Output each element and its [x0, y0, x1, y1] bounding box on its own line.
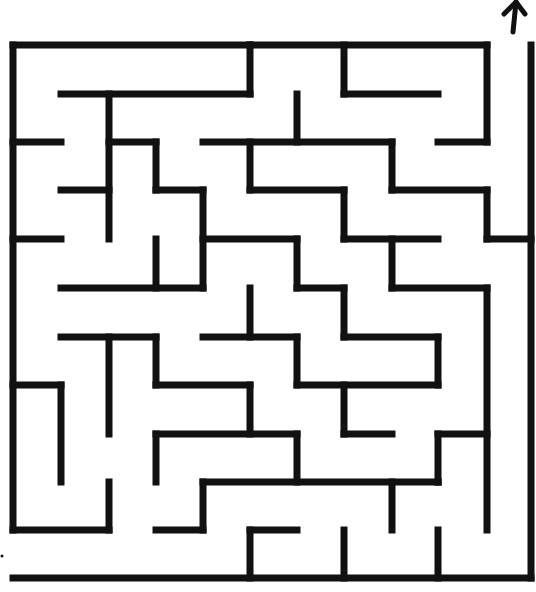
entry-mark — [1, 555, 4, 558]
exit-arrow-icon — [504, 2, 525, 32]
maze-board — [0, 0, 536, 592]
maze-walls — [13, 45, 531, 578]
